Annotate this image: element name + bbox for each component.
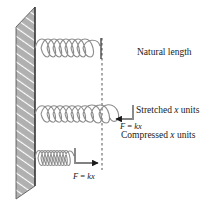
compressed-force-x: x (91, 171, 95, 181)
spring-force-diagram: Natural length Stretched x units Compres… (0, 0, 210, 205)
compressed-force-equals: = (78, 171, 87, 181)
stretched-prefix-text: Stretched (136, 105, 174, 115)
diagram-canvas (0, 0, 210, 205)
spring-coil-compressed (35, 151, 74, 166)
spring-compressed (35, 148, 98, 166)
spring-stretched (35, 105, 133, 123)
stretched-force-x: x (138, 121, 142, 131)
fixed-wall (16, 7, 35, 199)
natural-length-text: Natural length (137, 47, 192, 57)
label-stretched: Stretched x units (136, 106, 199, 116)
compressed-suffix-text: units (175, 130, 196, 140)
spring-coil-natural (35, 39, 100, 57)
label-compressed: Compressed x units (121, 131, 195, 141)
formula-compressed-force: F = kx (73, 172, 95, 181)
compressed-prefix-text: Compressed (121, 130, 170, 140)
spring-natural (35, 38, 101, 59)
label-natural-length: Natural length (137, 48, 192, 58)
wall-face (16, 7, 35, 199)
stretched-suffix-text: units (178, 105, 199, 115)
formula-stretched-force: F = kx (120, 122, 142, 131)
spring-coil-stretched (35, 105, 119, 123)
stretched-force-equals: = (125, 121, 134, 131)
